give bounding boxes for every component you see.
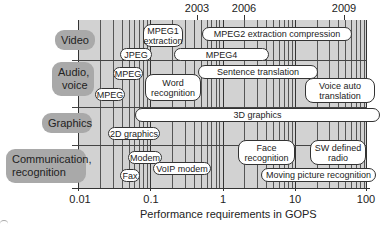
pill-label: MPEG2 extraction compression bbox=[214, 29, 341, 39]
pill-label: Fax bbox=[122, 171, 137, 181]
category-video: Video bbox=[55, 30, 95, 50]
category-comm-label-1: Communication, bbox=[12, 153, 91, 166]
pill-label: translation bbox=[319, 91, 361, 101]
pill-label: Sentence translation bbox=[217, 67, 299, 77]
pill-sw-defined-radio: SW defined radio bbox=[310, 140, 366, 165]
x-axis-line bbox=[72, 188, 370, 189]
x-axis-title: Performance requirements in GOPS bbox=[140, 208, 317, 220]
x-tick-mark bbox=[78, 185, 79, 191]
grid-line bbox=[211, 20, 212, 188]
grid-line bbox=[216, 20, 217, 188]
pill-2d-graphics: 2D graphics bbox=[108, 127, 160, 140]
category-communication-recognition: Communication, recognition bbox=[6, 149, 86, 183]
year-label-2009: 2009 bbox=[332, 2, 356, 14]
pill-fax: Fax bbox=[120, 169, 140, 182]
x-tick-mark bbox=[366, 185, 367, 191]
pill-label: SW defined bbox=[315, 143, 362, 153]
year-label-2003: 2003 bbox=[185, 2, 209, 14]
pill-label: MPEG bbox=[97, 90, 124, 100]
x-tick-label-0.1: 0.1 bbox=[143, 193, 158, 205]
pill-audio-mpeg-upper: MPEG bbox=[113, 67, 143, 80]
pill-face-recognition: Face recognition bbox=[238, 140, 295, 165]
pill-voice-auto-translation: Voice auto translation bbox=[305, 78, 375, 103]
grid-line bbox=[113, 20, 114, 188]
grid-line bbox=[129, 20, 130, 188]
x-tick-mark bbox=[223, 185, 224, 191]
grid-line bbox=[295, 20, 296, 188]
pill-moving-picture-recognition: Moving picture recognition bbox=[261, 168, 376, 182]
pill-label: VoIP modem bbox=[156, 164, 207, 174]
pill-jpeg: JPEG bbox=[120, 48, 152, 61]
decorative-mark bbox=[0, 220, 8, 225]
pill-label: recognition bbox=[151, 88, 195, 98]
pill-label: recognition bbox=[244, 153, 288, 163]
pill-label: Word bbox=[162, 78, 183, 88]
pill-voip-modem: VoIP modem bbox=[153, 162, 211, 175]
pill-word-recognition: Word recognition bbox=[145, 74, 201, 101]
category-audio-label-1: Audio, bbox=[58, 66, 89, 79]
x-tick-mark bbox=[295, 185, 296, 191]
grid-line bbox=[100, 20, 101, 188]
grid-line bbox=[364, 20, 365, 188]
pill-label: radio bbox=[328, 153, 348, 163]
year-label-2006: 2006 bbox=[232, 2, 256, 14]
pill-label: Modem bbox=[130, 153, 160, 163]
grid-line bbox=[223, 20, 224, 188]
x-tick-label-100: 100 bbox=[357, 193, 375, 205]
x-tick-label-10: 10 bbox=[289, 193, 301, 205]
x-tick-label-1: 1 bbox=[220, 193, 226, 205]
pill-mpeg4: MPEG4 bbox=[174, 48, 269, 61]
category-audio-label-2: voice bbox=[58, 79, 88, 92]
category-comm-label-2: recognition bbox=[12, 166, 66, 179]
pill-audio-mpeg-lower: MPEG bbox=[95, 88, 125, 101]
pill-label: Voice auto bbox=[319, 81, 361, 91]
pill-3d-graphics: 3D graphics bbox=[135, 108, 380, 122]
pill-label: MPEG bbox=[115, 69, 142, 79]
x-tick-label-0.01: 0.01 bbox=[69, 193, 90, 205]
pill-mpeg2-extraction-compression: MPEG2 extraction compression bbox=[202, 27, 352, 41]
pill-label: MPEG4 bbox=[206, 50, 238, 60]
pill-label: 3D graphics bbox=[233, 110, 281, 120]
pill-label: Face bbox=[256, 143, 276, 153]
x-tick-mark bbox=[150, 185, 151, 191]
pill-label: Moving picture recognition bbox=[266, 170, 371, 180]
category-video-label: Video bbox=[61, 34, 89, 47]
category-graphics: Graphics bbox=[42, 113, 92, 133]
grid-line bbox=[122, 20, 123, 188]
category-graphics-label: Graphics bbox=[48, 117, 92, 130]
grid-line bbox=[366, 20, 367, 188]
pill-label: MPEG1 bbox=[147, 26, 179, 36]
category-audio-voice: Audio, voice bbox=[52, 62, 94, 96]
pill-sentence-translation: Sentence translation bbox=[198, 65, 318, 79]
pill-mpeg1-extraction: MPEG1 extraction bbox=[143, 24, 183, 47]
grid-line bbox=[219, 20, 220, 188]
pill-label: JPEG bbox=[124, 50, 148, 60]
pill-label: 2D graphics bbox=[110, 129, 158, 139]
pill-label: extraction bbox=[143, 36, 182, 46]
